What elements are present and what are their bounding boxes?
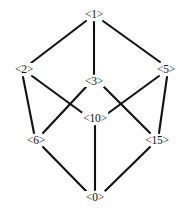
graph-node-n0[interactable]: <0> bbox=[85, 191, 105, 203]
graph-node-n1[interactable]: <1> bbox=[84, 8, 104, 20]
lattice-diagram: <1><2><5><3><10><6><15><0> bbox=[0, 0, 186, 208]
graph-node-n5[interactable]: <5> bbox=[156, 63, 176, 75]
graph-node-n6[interactable]: <6> bbox=[26, 134, 46, 146]
graph-node-n3[interactable]: <3> bbox=[84, 75, 104, 87]
graph-node-layer: <1><2><5><3><10><6><15><0> bbox=[0, 0, 186, 208]
graph-node-n10[interactable]: <10> bbox=[82, 112, 108, 124]
graph-node-n15[interactable]: <15> bbox=[144, 134, 170, 146]
graph-node-n2[interactable]: <2> bbox=[14, 63, 34, 75]
